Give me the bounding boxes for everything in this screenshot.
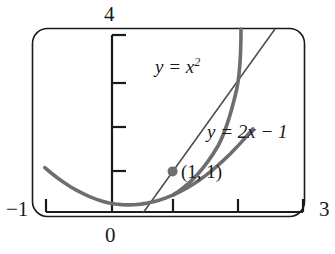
parabola-exponent: 2 (194, 55, 200, 69)
x-axis-min-label: −1 (6, 199, 28, 220)
tangency-point-label: (1, 1) (181, 162, 222, 181)
y-axis-ticks (112, 35, 126, 171)
parabola-equation-text: y = x (155, 56, 194, 77)
x-axis-max-label: 3 (319, 199, 330, 220)
tangent-equation-label: y = 2x − 1 (207, 122, 288, 141)
origin-label: 0 (105, 225, 116, 246)
parabola-equation-label: y = x2 (155, 57, 200, 76)
tangent-equation-text: y = 2x − 1 (207, 121, 288, 142)
y-axis-max-label: 4 (104, 4, 115, 25)
tangency-point-marker (168, 166, 178, 176)
math-figure: 4 −1 3 0 y = x2 y = 2x − 1 (1, 1) (0, 0, 335, 254)
x-axis-ticks (46, 199, 303, 212)
